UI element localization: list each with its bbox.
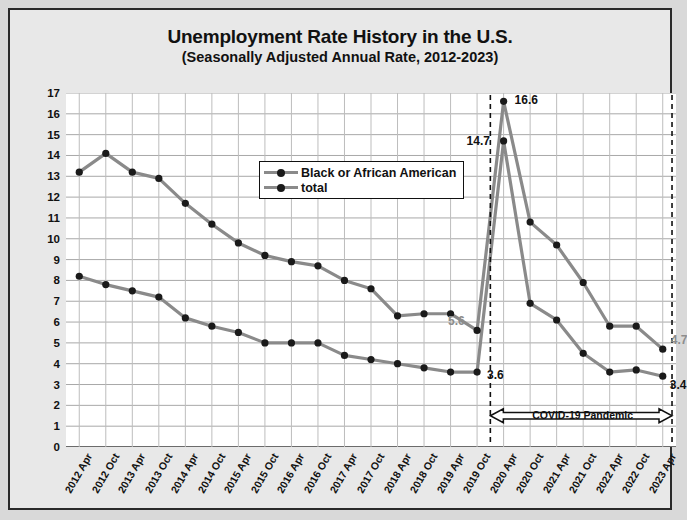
chart-subtitle: (Seasonally Adjusted Annual Rate, 2012-2… [10, 49, 670, 65]
data-point-label: 4.7 [671, 333, 687, 347]
data-point [500, 98, 507, 105]
data-point [182, 314, 189, 321]
data-point [606, 368, 613, 375]
data-point [102, 150, 109, 157]
data-point [314, 339, 321, 346]
data-point [102, 281, 109, 288]
x-axis-ticks: 2012 Apr2012 Oct2013 Apr2013 Oct2014 Apr… [66, 451, 676, 520]
y-axis-ticks: 01234567891011121314151617 [24, 93, 60, 447]
data-point [633, 366, 640, 373]
plot-area [66, 93, 676, 447]
chart-legend[interactable]: Black or African American total [259, 161, 464, 199]
data-point [420, 310, 427, 317]
data-point [314, 262, 321, 269]
y-axis-tick-label: 5 [30, 337, 60, 349]
y-axis-tick-label: 16 [30, 108, 60, 120]
data-point [76, 273, 83, 280]
data-point [367, 285, 374, 292]
data-point [129, 169, 136, 176]
data-point [288, 339, 295, 346]
y-axis-tick-label: 15 [30, 129, 60, 141]
data-point [341, 352, 348, 359]
data-point-label: 14.7 [467, 134, 490, 148]
legend-label: total [301, 181, 327, 195]
data-point [235, 239, 242, 246]
data-point [659, 346, 666, 353]
data-point [420, 364, 427, 371]
y-axis-tick-label: 2 [30, 399, 60, 411]
y-axis-tick-label: 17 [30, 87, 60, 99]
data-point [659, 373, 666, 380]
data-point-label: 3.6 [487, 368, 504, 382]
covid-annotation-label: COVID-19 Pandemic [532, 409, 633, 421]
y-axis-tick-label: 10 [30, 233, 60, 245]
data-point [341, 277, 348, 284]
y-axis-tick-label: 1 [30, 420, 60, 432]
chart-title-block: Unemployment Rate History in the U.S. (S… [10, 26, 670, 65]
chart-frame: Unemployment Rate History in the U.S. (S… [8, 8, 672, 510]
y-axis-tick-label: 11 [30, 212, 60, 224]
legend-item-total[interactable]: total [264, 180, 456, 195]
y-axis-tick-label: 4 [30, 358, 60, 370]
y-axis-tick-label: 6 [30, 316, 60, 328]
chart-canvas [66, 93, 676, 447]
data-point [553, 241, 560, 248]
data-point [473, 327, 480, 334]
data-point [633, 323, 640, 330]
data-point [208, 221, 215, 228]
data-point [182, 200, 189, 207]
data-point [261, 252, 268, 259]
data-point [527, 219, 534, 226]
y-axis-tick-label: 14 [30, 149, 60, 161]
data-point [288, 258, 295, 265]
y-axis-tick-label: 12 [30, 191, 60, 203]
data-point [208, 323, 215, 330]
y-axis-tick-label: 9 [30, 254, 60, 266]
data-point [394, 360, 401, 367]
y-axis-tick-label: 0 [30, 441, 60, 453]
data-point-label: 3.4 [670, 378, 687, 392]
data-point [367, 356, 374, 363]
data-point-label: 5.6 [448, 314, 465, 328]
data-point [473, 368, 480, 375]
data-point [447, 368, 454, 375]
data-point [235, 329, 242, 336]
y-axis-tick-label: 3 [30, 379, 60, 391]
data-point [527, 300, 534, 307]
data-point [155, 293, 162, 300]
y-axis-tick-label: 13 [30, 170, 60, 182]
data-point [606, 323, 613, 330]
data-point [261, 339, 268, 346]
data-point [155, 175, 162, 182]
data-point [500, 137, 507, 144]
legend-swatch-line-icon [264, 182, 298, 193]
y-axis-tick-label: 7 [30, 295, 60, 307]
y-axis-tick-label: 8 [30, 274, 60, 286]
legend-label: Black or African American [301, 166, 456, 180]
data-point [129, 287, 136, 294]
data-point [580, 279, 587, 286]
page-title: Unemployment Rate History in the U.S. [10, 26, 670, 48]
data-point-label: 16.6 [515, 93, 538, 107]
data-point [76, 169, 83, 176]
legend-swatch-line-icon [264, 167, 298, 178]
legend-item-black-or-african-american[interactable]: Black or African American [264, 165, 456, 180]
data-point [553, 316, 560, 323]
data-point [580, 350, 587, 357]
data-point [394, 312, 401, 319]
